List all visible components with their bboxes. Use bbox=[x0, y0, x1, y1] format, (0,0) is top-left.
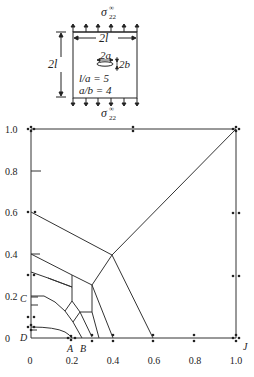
svg-text:0.4: 0.4 bbox=[5, 249, 18, 260]
label-J: J bbox=[243, 341, 248, 352]
point-labels: A B C D J bbox=[19, 293, 248, 354]
mesh: 1.0 0.8 0.6 0.4 0.2 0 0 0.2 0.4 0.6 0.8 … bbox=[5, 124, 248, 366]
label-B: B bbox=[80, 343, 86, 354]
svg-text:0.8: 0.8 bbox=[5, 166, 18, 177]
width-label: 2l bbox=[99, 31, 109, 45]
top-load-sub: 22 bbox=[109, 13, 117, 21]
x-tick-labels: 0 0.2 0.4 0.6 0.8 1.0 bbox=[28, 355, 243, 366]
svg-text:1.0: 1.0 bbox=[5, 124, 18, 135]
height-label: 2l bbox=[48, 57, 58, 71]
specimen-inset: σ ∞ 22 bbox=[48, 4, 139, 122]
y-axis-ticks bbox=[31, 171, 41, 330]
svg-text:0.8: 0.8 bbox=[189, 355, 202, 366]
label-D: D bbox=[19, 332, 28, 343]
height-dimension bbox=[56, 32, 66, 97]
y-tick-labels: 1.0 0.8 0.6 0.4 0.2 0 bbox=[5, 124, 18, 344]
top-load-sup: ∞ bbox=[109, 4, 114, 12]
ratio-l-over-a: l/a = 5 bbox=[79, 72, 110, 84]
node-markers bbox=[27, 126, 241, 343]
elliptical-hole bbox=[97, 62, 113, 66]
label-C: C bbox=[20, 293, 27, 304]
svg-text:1.0: 1.0 bbox=[230, 355, 243, 366]
bottom-load-label: σ bbox=[101, 106, 108, 120]
svg-text:0: 0 bbox=[5, 333, 10, 344]
diagram: σ ∞ 22 bbox=[0, 0, 254, 377]
bottom-load-sub: 22 bbox=[109, 114, 117, 122]
svg-text:0.4: 0.4 bbox=[107, 355, 120, 366]
svg-text:0.6: 0.6 bbox=[148, 355, 161, 366]
svg-text:0.2: 0.2 bbox=[66, 355, 79, 366]
bottom-load-sup: ∞ bbox=[109, 105, 114, 113]
top-load-label: σ bbox=[101, 5, 108, 19]
ratio-a-over-b: a/b = 4 bbox=[79, 84, 112, 96]
bottom-arrows bbox=[71, 98, 139, 106]
svg-text:0: 0 bbox=[28, 355, 33, 366]
svg-text:0.6: 0.6 bbox=[5, 207, 18, 218]
label-A: A bbox=[66, 343, 74, 354]
mesh-elements bbox=[31, 129, 236, 338]
crack-height-label: 2b bbox=[119, 58, 131, 70]
svg-text:0.2: 0.2 bbox=[5, 291, 18, 302]
